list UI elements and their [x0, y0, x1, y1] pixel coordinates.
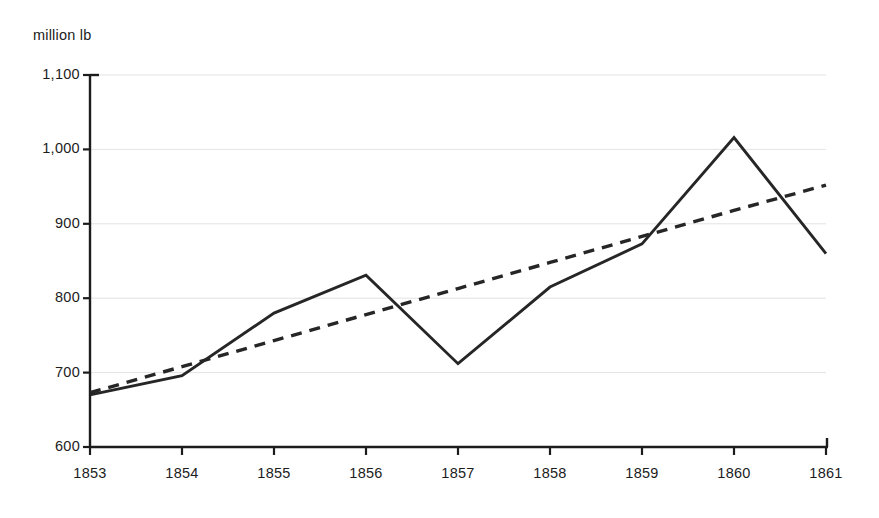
x-tick-label: 1861 [786, 465, 866, 481]
x-tick-label: 1860 [694, 465, 774, 481]
series-line-actual [90, 137, 826, 394]
data-series [90, 137, 826, 394]
y-tick-label: 800 [20, 289, 80, 305]
series-line-trend [90, 185, 826, 393]
x-tick-label: 1858 [510, 465, 590, 481]
y-tick-label: 700 [20, 364, 80, 380]
line-chart: million lb 6007008009001,0001,100 185318… [0, 0, 879, 518]
y-tick-label: 900 [20, 215, 80, 231]
y-tick-label: 600 [20, 438, 80, 454]
axis-ticks [83, 75, 826, 455]
x-tick-label: 1854 [142, 465, 222, 481]
axes [90, 75, 828, 447]
gridlines [90, 75, 826, 373]
y-tick-label: 1,000 [20, 140, 80, 156]
x-tick-label: 1855 [234, 465, 314, 481]
x-tick-label: 1859 [602, 465, 682, 481]
x-tick-label: 1853 [50, 465, 130, 481]
x-tick-label: 1857 [418, 465, 498, 481]
x-tick-label: 1856 [326, 465, 406, 481]
plot-area [0, 0, 879, 518]
y-tick-label: 1,100 [20, 66, 80, 82]
